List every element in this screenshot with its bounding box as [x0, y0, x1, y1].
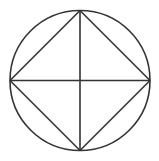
circle-square-diagram	[0, 0, 159, 161]
segment-left-top	[10, 11, 80, 81]
segment-bottom-left	[10, 81, 80, 151]
segment-right-bottom	[80, 81, 150, 151]
segment-top-right	[80, 11, 150, 81]
